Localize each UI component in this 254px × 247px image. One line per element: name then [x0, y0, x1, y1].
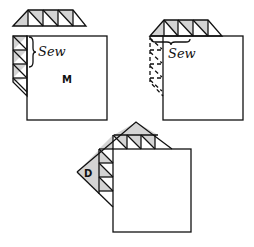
sew-label: Sew [168, 46, 196, 61]
square-step-3 [113, 149, 191, 232]
panel-step-3: D [77, 122, 191, 232]
triangle-strip-top-loose [13, 10, 86, 26]
triangle-strip-top-attached [150, 20, 222, 36]
sew-label: Sew [38, 44, 66, 59]
piece-label-m: M [62, 74, 72, 85]
triangle-strip-left-final [99, 149, 113, 194]
piece-label-d: D [84, 168, 92, 179]
triangle-strip-left-dashed [150, 36, 163, 96]
triangle-strip-left [13, 36, 27, 96]
sew-brace [29, 37, 36, 67]
panel-step-2: Sew [150, 20, 243, 120]
triangle-strip-top-final [99, 135, 158, 149]
quilt-assembly-diagram: Sew M [0, 0, 254, 247]
panel-step-1: Sew M [13, 10, 107, 120]
